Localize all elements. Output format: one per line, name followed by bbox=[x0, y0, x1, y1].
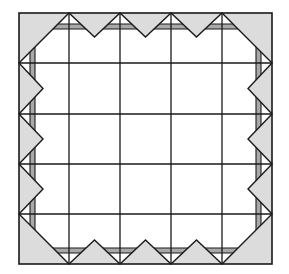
border-fills bbox=[19, 13, 272, 264]
quilt-diagram bbox=[0, 0, 289, 274]
interior-fill bbox=[19, 13, 272, 264]
